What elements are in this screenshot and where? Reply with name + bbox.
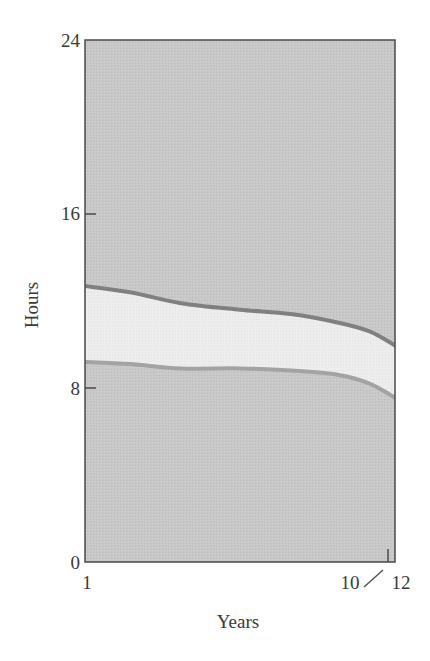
axis-break-slash <box>364 570 383 587</box>
y-axis-title: Hours <box>21 282 42 328</box>
x-axis-title: Years <box>217 611 259 632</box>
y-tick-label-8: 8 <box>71 378 81 399</box>
x-tick-label-12: 12 <box>392 572 411 593</box>
chart: 24 16 8 0 1 10 12 Hours Years <box>0 0 430 661</box>
y-tick-label-16: 16 <box>61 203 80 224</box>
y-tick-label-24: 24 <box>61 30 81 51</box>
x-tick-label-10: 10 <box>341 572 360 593</box>
x-tick-label-1: 1 <box>82 572 92 593</box>
y-tick-label-0: 0 <box>71 552 81 573</box>
